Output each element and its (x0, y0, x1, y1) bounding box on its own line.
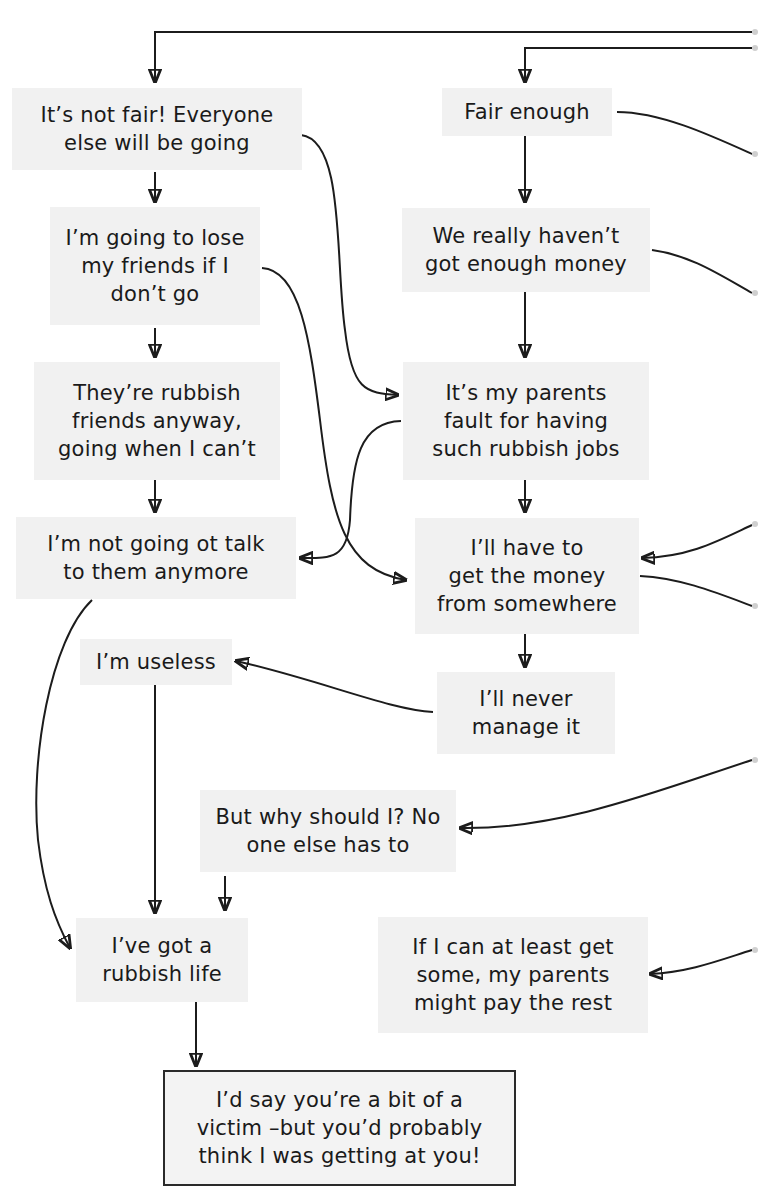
offpage-connector-dot (752, 151, 758, 157)
offpage-connector-dot (752, 521, 758, 527)
node-why-should-i: But why should I? No one else has to (200, 790, 456, 872)
node-get-money: I’ll have to get the money from somewher… (415, 518, 639, 634)
offpage-connector-dot (752, 947, 758, 953)
node-conclusion-victim: I’d say you’re a bit of a victim –but yo… (163, 1070, 516, 1186)
edge-F-to-G (300, 421, 401, 558)
edge-B-to-offpage (617, 112, 752, 154)
edge-H-to-offpage (640, 576, 752, 606)
node-never-manage: I’ll never manage it (437, 672, 615, 754)
node-rubbish-friends: They’re rubbish friends anyway, going wh… (34, 362, 280, 480)
edge-A-to-F (301, 135, 398, 395)
edge-offpage-to-M (650, 950, 752, 974)
node-parents-fault: It’s my parents fault for having such ru… (403, 362, 649, 480)
offpage-connector-dot (752, 290, 758, 296)
node-parents-pay-rest: If I can at least get some, my parents m… (378, 917, 648, 1033)
edge-offpage-to-B (525, 48, 752, 82)
flowchart-diagram: It’s not fair! Everyone else will be goi… (0, 0, 760, 1199)
node-fair-enough: Fair enough (442, 88, 612, 136)
offpage-connector-dot (752, 45, 758, 51)
node-not-talk: I’m not going ot talk to them anymore (16, 517, 296, 599)
edge-J-to-I (236, 661, 433, 712)
node-useless: I’m useless (80, 639, 232, 685)
edge-offpage-to-A (155, 32, 752, 82)
edge-offpage-to-H (642, 525, 752, 558)
offpage-connector-dot (752, 603, 758, 609)
node-rubbish-life: I’ve got a rubbish life (76, 918, 248, 1002)
node-lose-friends: I’m going to lose my friends if I don’t … (50, 207, 260, 325)
node-its-not-fair: It’s not fair! Everyone else will be goi… (12, 88, 302, 170)
offpage-connector-dot (752, 757, 758, 763)
offpage-connector-dot (752, 29, 758, 35)
edge-offpage-to-K (460, 760, 752, 828)
edge-D-to-offpage (652, 250, 752, 293)
node-not-enough-money: We really haven’t got enough money (402, 208, 650, 292)
